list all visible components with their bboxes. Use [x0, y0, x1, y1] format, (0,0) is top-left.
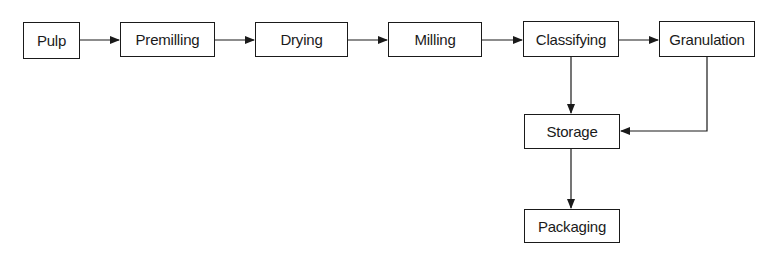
node-storage: Storage [524, 114, 620, 149]
node-label: Pulp [37, 32, 66, 49]
node-pulp: Pulp [23, 22, 80, 59]
node-classifying: Classifying [523, 21, 619, 57]
node-milling: Milling [388, 22, 482, 57]
flowchart-canvas: Pulp Premilling Drying Milling Classifyi… [0, 0, 779, 257]
node-premilling: Premilling [120, 22, 215, 57]
node-label: Premilling [136, 31, 200, 48]
node-label: Milling [414, 31, 455, 48]
edge-granulation-storage [621, 57, 707, 131]
node-label: Classifying [536, 31, 606, 48]
node-granulation: Granulation [659, 21, 755, 57]
node-packaging: Packaging [524, 209, 620, 243]
node-label: Packaging [538, 218, 606, 235]
node-label: Granulation [669, 31, 744, 48]
node-drying: Drying [255, 22, 348, 57]
node-label: Drying [280, 31, 322, 48]
node-label: Storage [546, 123, 597, 140]
